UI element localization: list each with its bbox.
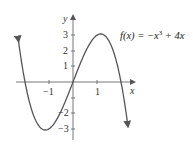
x-tick-label-1: 1 [95, 87, 100, 97]
y-tick-label-neg3: −3 [58, 124, 69, 134]
x-tick-label-neg1: −1 [43, 87, 54, 97]
x-axis-label: x [130, 86, 134, 96]
equation-rhs: + 4x [162, 30, 184, 41]
y-tick-label-1: 1 [63, 61, 68, 71]
function-equation-label: f(x) = −x3 + 4x [120, 29, 184, 41]
equation-lhs: f(x) = −x [120, 30, 159, 41]
y-tick-label-3: 3 [63, 30, 68, 40]
cubic-function-plot [0, 0, 193, 146]
y-axis-label: y [63, 14, 67, 24]
y-tick-label-neg2: −2 [58, 108, 69, 118]
y-tick-label-2: 2 [63, 46, 68, 56]
